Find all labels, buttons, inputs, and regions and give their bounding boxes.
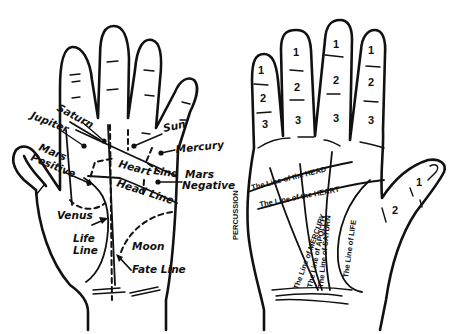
left-wrist-lines <box>93 287 160 296</box>
little-phalanx-2: 2 <box>260 92 266 104</box>
little-phalanx-1: 1 <box>258 64 264 76</box>
left-life-line <box>84 178 108 282</box>
middle-phalanx-1: 1 <box>333 38 339 50</box>
label-line-of-head: The Line of the HEAD <box>250 165 327 192</box>
thumb-phalanx-2: 2 <box>392 204 398 216</box>
ring-phalanx-2: 2 <box>294 81 300 93</box>
right-wrist-lines <box>272 288 352 304</box>
label-fate-line: Fate Line <box>132 263 186 275</box>
index-phalanx-2: 2 <box>368 76 374 88</box>
label-mars-negative-2: Negative <box>182 179 235 191</box>
little-phalanx-3: 3 <box>262 118 268 130</box>
right-hand: PERCUSSION 1 2 3 1 2 3 1 2 3 1 2 3 1 2 T… <box>231 20 445 330</box>
index-phalanx-1: 1 <box>368 44 374 56</box>
label-percussion: PERCUSSION <box>231 190 240 240</box>
label-heart-line: Line <box>153 164 179 179</box>
label-line-of-heart: The Line of the HEART <box>259 185 341 209</box>
middle-phalanx-2: 2 <box>333 74 339 86</box>
label-heart: Heart <box>117 157 153 177</box>
ring-phalanx-3: 3 <box>295 114 301 126</box>
ring-phalanx-1: 1 <box>293 46 299 58</box>
right-thumb-nail <box>428 165 438 180</box>
sun-pointer <box>134 134 162 146</box>
palmistry-diagram: Saturn Jupiter Sun Mercury Mars Positive… <box>0 0 461 334</box>
middle-phalanx-3: 3 <box>333 112 339 124</box>
label-head-line: Head Line <box>115 176 175 206</box>
label-mercury: Mercury <box>175 138 226 155</box>
label-life-2: Line <box>73 244 98 256</box>
thumb-phalanx-1: 1 <box>416 176 422 188</box>
label-life-1: Life <box>73 232 95 244</box>
left-mars-dashed <box>70 200 105 209</box>
right-palm-top-crease <box>258 137 384 148</box>
left-hand: Saturn Jupiter Sun Mercury Mars Positive… <box>13 26 235 330</box>
label-moon: Moon <box>132 240 164 252</box>
right-thumb-crease <box>382 188 422 222</box>
index-phalanx-3: 3 <box>368 114 374 126</box>
label-line-of-life: The Line of LIFE <box>341 219 358 278</box>
label-venus: Venus <box>57 209 93 221</box>
